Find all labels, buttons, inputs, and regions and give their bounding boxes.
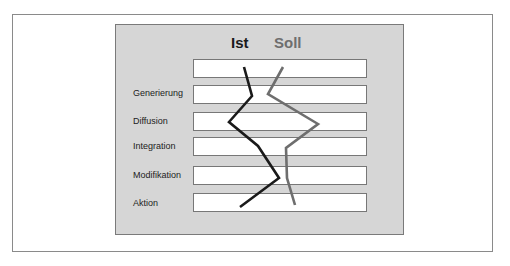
- bar-row-modifikation: [193, 166, 367, 185]
- bar-row-diffusion: [193, 112, 367, 131]
- header-soll: Soll: [274, 34, 302, 51]
- bar-row-generierung: [193, 85, 367, 104]
- header-ist: Ist: [231, 34, 249, 51]
- row-label-modifikation: Modifikation: [133, 170, 181, 180]
- bar-row-integration: [193, 137, 367, 156]
- row-label-integration: Integration: [133, 141, 176, 151]
- bar-row-0: [193, 59, 367, 78]
- row-label-aktion: Aktion: [133, 198, 158, 208]
- row-label-diffusion: Diffusion: [133, 116, 168, 126]
- row-label-generierung: Generierung: [133, 88, 183, 98]
- bar-row-aktion: [193, 193, 367, 212]
